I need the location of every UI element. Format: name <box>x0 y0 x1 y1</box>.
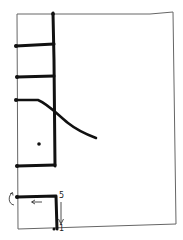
label-1: 1 <box>59 225 64 233</box>
label-5: 5 <box>59 192 64 200</box>
stitch-hole <box>14 44 18 48</box>
stitch-hole <box>15 75 19 79</box>
detail-hole-bottom <box>53 228 56 231</box>
detail-stitch <box>17 196 57 229</box>
curved-arrow-icon <box>9 193 14 206</box>
stitch-line-4 <box>17 165 55 166</box>
stitching-diagram <box>0 0 183 240</box>
stitch-line-1 <box>16 44 54 46</box>
stitch-hole <box>14 98 18 102</box>
arrow-left-icon <box>32 200 43 204</box>
stitch-line-2 <box>17 76 54 77</box>
spine-top-hole <box>51 12 55 16</box>
center-dot <box>37 142 41 146</box>
spine-line <box>53 13 55 166</box>
arrow-down-icon <box>59 202 64 224</box>
detail-hole <box>15 195 19 199</box>
stitch-hole <box>15 164 19 168</box>
